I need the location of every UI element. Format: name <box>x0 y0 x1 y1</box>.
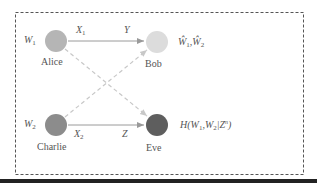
label-x2: X2 <box>74 128 84 141</box>
w2-hat: Ŵ <box>192 36 200 47</box>
label-y: Y <box>124 24 130 35</box>
edge-alice-eve-dashed <box>65 49 147 116</box>
label-bob-estimate: Ŵ1,Ŵ2 <box>178 36 204 49</box>
diagram-canvas: W1 W2 X1 Y X2 Z Alice Bob Charlie Eve Ŵ1… <box>0 0 317 188</box>
label-w1: W1 <box>24 34 36 47</box>
w1-subscript: 1 <box>32 39 36 47</box>
label-bob: Bob <box>145 58 162 69</box>
x1-subscript: 1 <box>82 29 86 37</box>
node-charlie <box>45 114 67 136</box>
eq-part-3: |Z <box>217 119 225 130</box>
label-z: Z <box>122 128 128 139</box>
node-bob <box>146 31 168 53</box>
label-x1: X1 <box>76 24 86 37</box>
label-charlie: Charlie <box>37 141 66 152</box>
label-eve-equivocation: H(W1,W2|Zn) <box>180 119 231 132</box>
eq-part-1: H(W <box>180 119 199 130</box>
node-alice <box>45 30 67 52</box>
edge-charlie-bob-dashed <box>65 50 147 117</box>
label-w2: W2 <box>24 118 36 131</box>
w2-hat-sub: 2 <box>201 41 205 49</box>
eq-close: ) <box>228 119 231 130</box>
diagram-svg <box>0 0 317 188</box>
bottom-rule <box>0 179 317 183</box>
w2-subscript: 2 <box>32 123 36 131</box>
eq-part-2: ,W <box>202 119 213 130</box>
label-eve: Eve <box>146 142 162 153</box>
x2-subscript: 2 <box>80 133 84 141</box>
node-eve <box>146 114 168 136</box>
label-alice: Alice <box>41 56 63 67</box>
